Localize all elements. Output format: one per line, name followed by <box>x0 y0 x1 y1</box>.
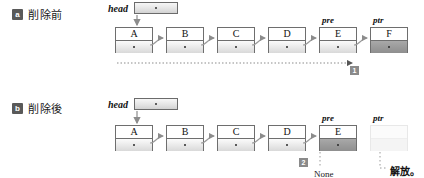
row-b-label: b 削除後 <box>12 100 63 116</box>
row-b-head-label: head <box>108 99 128 110</box>
row-a-head-pointer-box <box>134 2 178 14</box>
row-a-node-4: E <box>319 27 357 53</box>
pointer-dot-icon <box>133 46 135 48</box>
node-pointer-cell <box>218 139 254 151</box>
node-value: C <box>218 28 254 41</box>
node-value: A <box>116 28 152 41</box>
row-b-free-text: 解放。 <box>390 163 420 178</box>
node-pointer-cell <box>269 41 305 53</box>
node-pointer-cell <box>167 139 203 151</box>
pointer-dot-icon <box>337 144 339 146</box>
row-b-free-connector <box>380 152 388 168</box>
node-pointer-cell <box>218 41 254 53</box>
row-a-head-label: head <box>108 3 128 14</box>
row-b-node-1: B <box>166 125 204 151</box>
diagram-canvas: a 削除前 head A B C D E F pre ptr 1 b 削除後 h… <box>0 0 424 178</box>
node-pointer-cell <box>269 139 305 151</box>
row-a-step-badge: 1 <box>350 66 359 75</box>
row-a-node-5: F <box>370 27 408 53</box>
pointer-dot-icon <box>235 144 237 146</box>
row-a-var-ptr: ptr <box>373 15 384 25</box>
row-b-none-text: None <box>314 169 334 178</box>
pointer-dot-icon <box>184 46 186 48</box>
row-b-node-2: C <box>217 125 255 151</box>
node-value <box>371 126 407 139</box>
row-a-var-pre: pre <box>322 15 334 25</box>
row-b-label-text: 削除後 <box>28 100 63 116</box>
node-pointer-cell <box>320 41 356 53</box>
row-a-label: a 削除前 <box>12 6 63 22</box>
pointer-dot-icon <box>184 144 186 146</box>
node-value: B <box>167 126 203 139</box>
pointer-dot-icon <box>388 46 390 48</box>
node-value: B <box>167 28 203 41</box>
pointer-dot-icon <box>286 46 288 48</box>
row-b-var-pre: pre <box>322 113 334 123</box>
row-b-node-0: A <box>115 125 153 151</box>
node-value: C <box>218 126 254 139</box>
pointer-dot-icon <box>286 144 288 146</box>
node-value: E <box>320 28 356 41</box>
row-a-node-3: D <box>268 27 306 53</box>
node-pointer-cell <box>167 41 203 53</box>
pointer-dot-icon <box>235 46 237 48</box>
row-b-node-4: E <box>319 125 357 151</box>
row-a-node-1: B <box>166 27 204 53</box>
node-pointer-cell <box>320 139 356 151</box>
row-a-node-0: A <box>115 27 153 53</box>
row-b-step-badge: 2 <box>299 158 308 167</box>
node-pointer-cell <box>371 139 407 151</box>
node-value: D <box>269 28 305 41</box>
row-b-badge: b <box>12 103 23 114</box>
row-b-node-3: D <box>268 125 306 151</box>
node-pointer-cell <box>116 139 152 151</box>
row-b-node-5-freed <box>370 125 408 151</box>
node-pointer-cell <box>371 41 407 53</box>
row-b-var-ptr: ptr <box>373 113 384 123</box>
row-a-node-2: C <box>217 27 255 53</box>
node-value: D <box>269 126 305 139</box>
pointer-dot-icon <box>133 144 135 146</box>
pointer-dot-icon <box>337 46 339 48</box>
node-pointer-cell <box>116 41 152 53</box>
pointer-dot-icon <box>155 7 157 9</box>
connector-overlay <box>0 0 424 178</box>
row-a-badge: a <box>12 9 23 20</box>
row-a-label-text: 削除前 <box>28 6 63 22</box>
row-b-head-pointer-box <box>134 98 178 110</box>
pointer-dot-icon <box>155 103 157 105</box>
node-value: A <box>116 126 152 139</box>
node-value: E <box>320 126 356 139</box>
node-value: F <box>371 28 407 41</box>
